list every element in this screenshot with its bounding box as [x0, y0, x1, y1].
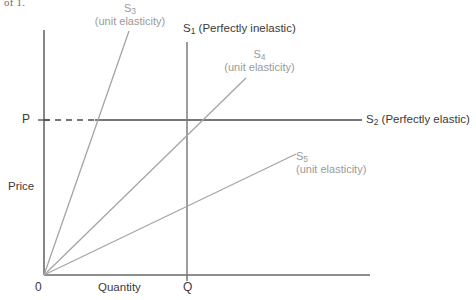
curve-label-s3-name: S3: [85, 2, 175, 15]
curve-s4-unit-elasticity: [44, 78, 246, 275]
curve-label-s5-name: S5: [296, 150, 391, 163]
origin-label: 0: [35, 280, 42, 294]
curve-label-s3-note: (unit elasticity): [85, 15, 175, 28]
curve-label-s5: S5 (unit elasticity): [296, 150, 391, 176]
curve-label-s1: S1 (Perfectly inelastic): [183, 22, 296, 36]
curve-label-s4-note: (unit elasticity): [212, 61, 307, 74]
y-axis-label: Price: [8, 180, 34, 194]
curve-label-s2: S2 (Perfectly elastic): [366, 113, 470, 127]
curve-s3-unit-elasticity: [44, 31, 129, 275]
curve-label-s5-note: (unit elasticity): [296, 163, 391, 176]
quantity-tick-label: Q: [183, 280, 192, 294]
price-tick-label: P: [22, 112, 30, 126]
curve-s5-unit-elasticity: [44, 154, 296, 275]
x-axis-label: Quantity: [98, 281, 141, 295]
diagram-canvas: [0, 0, 476, 300]
supply-elasticity-diagram: of 1. S3 (unit elasticity) S1 (Perfectly…: [0, 0, 476, 300]
curve-label-s4-name: S4: [212, 48, 307, 61]
curve-label-s3: S3 (unit elasticity): [85, 2, 175, 28]
cropped-header-text: of 1.: [4, 0, 25, 9]
curve-label-s4: S4 (unit elasticity): [212, 48, 307, 74]
